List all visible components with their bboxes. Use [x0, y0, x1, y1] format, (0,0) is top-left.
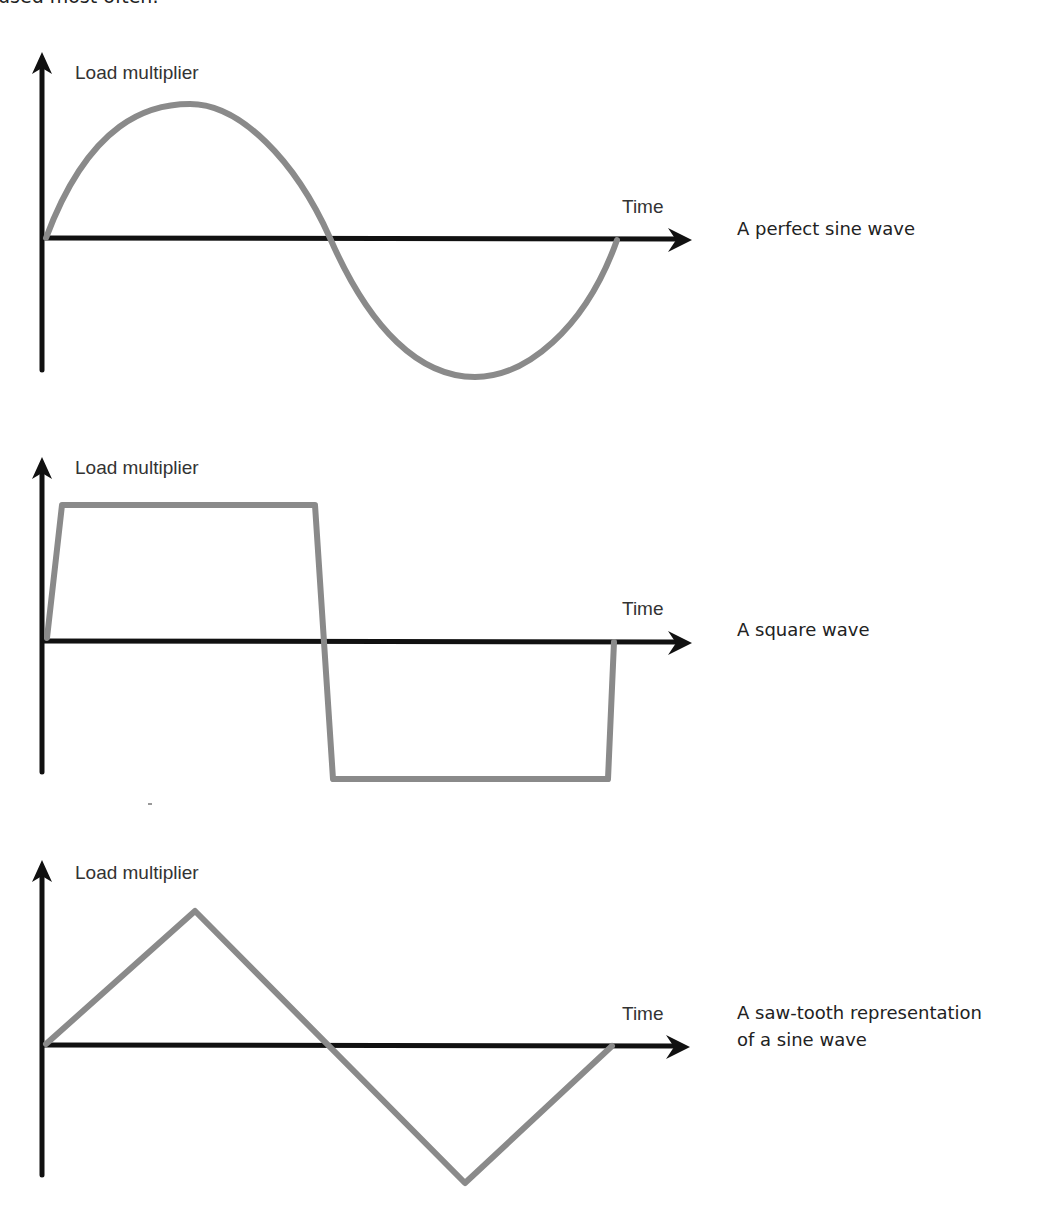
x-axis — [44, 238, 675, 239]
x-axis — [44, 641, 675, 642]
diagram-square-wave: Load multiplier Time A square wave — [32, 457, 870, 779]
x-axis-label: Time — [622, 1003, 664, 1024]
diagram-caption: A square wave — [737, 619, 870, 640]
y-axis-label: Load multiplier — [75, 62, 199, 83]
x-axis-label: Time — [622, 598, 664, 619]
x-axis — [44, 1045, 673, 1046]
diagram-caption: A perfect sine wave — [737, 218, 915, 239]
waveform-diagrams: Load multiplier Time A perfect sine wave… — [0, 0, 1064, 1214]
x-axis-label: Time — [622, 196, 664, 217]
diagram-caption-line-1: A saw-tooth representation — [737, 1002, 982, 1023]
artifact-dot — [148, 803, 152, 805]
y-axis-label: Load multiplier — [75, 457, 199, 478]
diagram-sawtooth-wave: Load multiplier Time A saw-tooth represe… — [32, 860, 982, 1183]
y-axis-label: Load multiplier — [75, 862, 199, 883]
diagram-caption-line-2: of a sine wave — [737, 1029, 867, 1050]
diagram-sine-wave: Load multiplier Time A perfect sine wave — [32, 52, 915, 377]
